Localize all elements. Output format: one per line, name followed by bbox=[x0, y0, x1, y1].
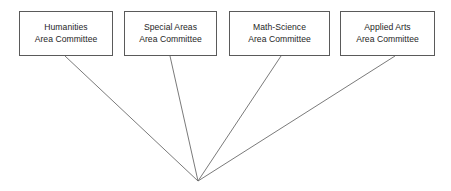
node-humanities-line-1: Humanities bbox=[44, 22, 87, 34]
node-applied-arts-line-1: Applied Arts bbox=[364, 22, 410, 34]
node-humanities[interactable]: Humanities Area Committee bbox=[19, 11, 113, 56]
connector-humanities bbox=[65, 56, 198, 181]
diagram-canvas: Humanities Area Committee Special Areas … bbox=[0, 0, 451, 191]
connector-applied-arts bbox=[198, 56, 395, 181]
node-special-areas-line-2: Area Committee bbox=[139, 34, 202, 46]
node-applied-arts-line-2: Area Committee bbox=[356, 34, 419, 46]
connector-math-science bbox=[198, 56, 281, 181]
node-math-science-line-1: Math-Science bbox=[253, 22, 306, 34]
node-math-science[interactable]: Math-Science Area Committee bbox=[229, 11, 330, 56]
node-special-areas-line-1: Special Areas bbox=[144, 22, 197, 34]
node-math-science-line-2: Area Committee bbox=[248, 34, 311, 46]
node-humanities-line-2: Area Committee bbox=[35, 34, 98, 46]
connector-special-areas bbox=[170, 56, 198, 181]
node-applied-arts[interactable]: Applied Arts Area Committee bbox=[340, 11, 435, 56]
node-special-areas[interactable]: Special Areas Area Committee bbox=[124, 11, 217, 56]
